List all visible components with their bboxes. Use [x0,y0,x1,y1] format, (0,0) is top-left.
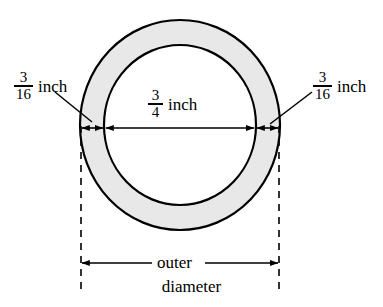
inner-circle [104,45,256,205]
wall-thickness-left-label: 3 16 inch [14,70,67,102]
unit-label: inch [168,96,197,113]
outer-diameter-label-line2: diameter [0,278,383,297]
fraction-numerator: 3 [18,70,30,85]
fraction-denominator: 16 [14,87,33,103]
fraction-numerator: 3 [317,70,329,85]
fraction-three-quarters: 3 4 [148,88,163,120]
unit-label: inch [337,78,366,95]
unit-label: inch [38,78,67,95]
outer-diameter-label-line1: outer [152,254,197,273]
inner-diameter-label: 3 4 inch [148,88,197,120]
wall-thickness-right-label: 3 16 inch [313,70,366,102]
fraction-numerator: 3 [150,88,162,103]
fraction-denominator: 4 [150,105,162,121]
pipe-cross-section-diagram: 3 16 inch 3 16 inch 3 4 inch outer diame… [0,0,383,307]
fraction-denominator: 16 [313,87,332,103]
fraction-three-sixteenths-right: 3 16 [313,70,332,102]
fraction-three-sixteenths-left: 3 16 [14,70,33,102]
